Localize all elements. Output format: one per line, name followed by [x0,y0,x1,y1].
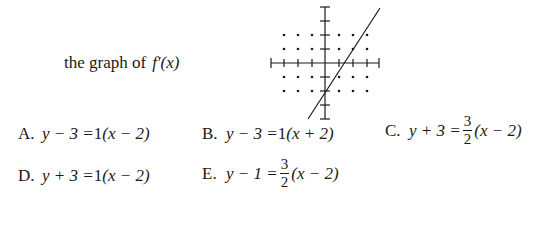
equation-lhs: y + 3 = [42,166,94,186]
equation-rhs: (x − 2) [102,124,149,144]
equation-lhs: y − 3 = [226,124,278,144]
equation-lhs: y − 3 = [42,124,94,144]
equation-lhs: y − 1 = [226,164,278,184]
fraction-denominator: 2 [281,174,289,190]
option-letter: D. [18,166,42,186]
fraction: 32 [463,114,473,147]
equation-lhs: y + 3 = [409,121,461,141]
equation-rhs: (x − 2) [474,121,521,141]
option-d[interactable]: D. y + 3 = 1(x − 2) [18,166,150,186]
equation-rhs: (x − 2) [291,164,338,184]
option-letter: E. [202,164,226,184]
equation-coef: 1 [278,124,287,144]
fraction-denominator: 2 [464,131,472,147]
option-letter: A. [18,124,42,144]
fraction: 32 [280,157,290,190]
equation-rhs: (x + 2) [286,124,333,144]
equation-coef: 1 [94,124,103,144]
equation-rhs: (x − 2) [102,166,149,186]
caption-function: f′(x) [152,53,179,72]
equation-coef: 1 [94,166,103,186]
option-b[interactable]: B. y − 3 = 1(x + 2) [202,124,334,144]
option-c[interactable]: C. y + 3 = 32 (x − 2) [385,114,522,147]
fraction-numerator: 3 [280,157,290,174]
fraction-numerator: 3 [463,114,473,131]
option-letter: B. [202,124,226,144]
graph-caption: the graph off′(x) [64,53,179,73]
option-a[interactable]: A. y − 3 = 1(x − 2) [18,124,150,144]
option-e[interactable]: E. y − 1 = 32 (x − 2) [202,157,339,190]
option-letter: C. [385,121,409,141]
caption-text: the graph of [64,53,146,72]
